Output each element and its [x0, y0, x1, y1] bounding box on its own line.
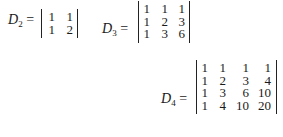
cell: 4 — [208, 100, 226, 113]
cell: 1 — [201, 100, 208, 113]
cell: 20 — [249, 100, 271, 113]
cell: 1 — [47, 24, 55, 37]
d2-label: D2 = — [8, 12, 34, 29]
cell: 10 — [226, 100, 249, 113]
cell: 1 — [143, 28, 150, 41]
d3-label: D3 = — [102, 21, 128, 38]
cell: 2 — [55, 24, 73, 37]
cell: 6 — [168, 28, 185, 41]
d2-matrix: 1 1 1 2 — [41, 9, 78, 38]
d4-matrix: 1 1 1 1 1 2 3 4 1 3 6 10 1 4 10 20 — [196, 60, 277, 114]
cell: 3 — [150, 28, 168, 41]
d3-matrix: 1 1 1 1 2 3 1 3 6 — [138, 1, 190, 43]
d4-label: D4 = — [161, 91, 187, 108]
